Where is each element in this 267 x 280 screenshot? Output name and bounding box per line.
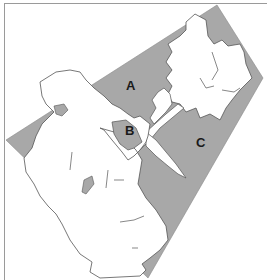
diagram-artwork <box>0 0 267 280</box>
label-c: C <box>196 136 205 149</box>
label-b: B <box>125 124 134 137</box>
figure-ground-diagram: A B C <box>0 0 267 280</box>
label-a: A <box>126 79 135 92</box>
